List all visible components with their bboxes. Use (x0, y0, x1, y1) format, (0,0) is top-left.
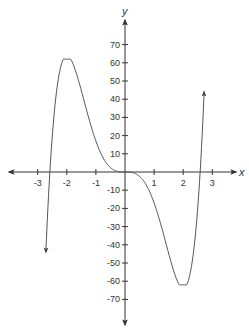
y-tick-label: 10 (110, 149, 120, 159)
y-tick-label: 60 (110, 58, 120, 68)
y-tick-label: -50 (107, 258, 120, 268)
function-graph: -3-2-1123 70605040302010-10-20-30-40-50-… (0, 0, 249, 330)
y-tick-label: 70 (110, 40, 120, 50)
y-tick-label: -30 (107, 222, 120, 232)
x-tick-label: -2 (63, 178, 71, 188)
x-tick-label: 1 (152, 178, 157, 188)
x-tick-label: 2 (181, 178, 186, 188)
y-tick-label: -10 (107, 185, 120, 195)
y-tick-label: 30 (110, 112, 120, 122)
x-tick-label: 3 (210, 178, 215, 188)
y-tick-label: 40 (110, 94, 120, 104)
y-tick-label: -60 (107, 276, 120, 286)
x-axis-label: x (238, 166, 245, 178)
y-tick-label: -20 (107, 203, 120, 213)
y-tick-label: -40 (107, 240, 120, 250)
y-tick-label: 20 (110, 131, 120, 141)
y-axis-label: y (121, 5, 129, 17)
x-tick-label: -1 (92, 178, 100, 188)
x-tick-label: -3 (34, 178, 42, 188)
y-tick-label: 50 (110, 76, 120, 86)
y-tick-label: -70 (107, 294, 120, 304)
